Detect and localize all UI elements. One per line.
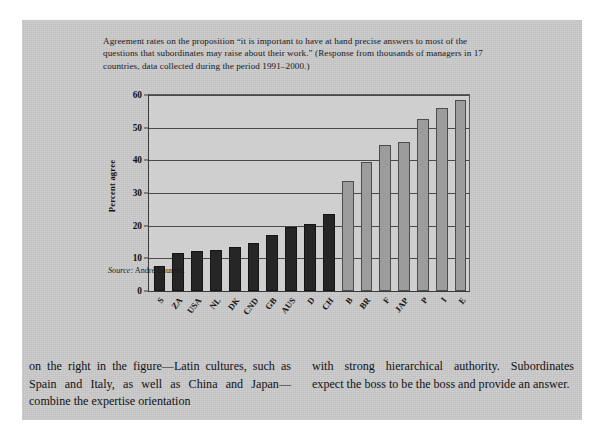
y-axis-label: Percent agree xyxy=(107,146,117,226)
x-axis-label-jap: JAP xyxy=(393,296,411,315)
body-column-right: with strong hierarchical authority. Subo… xyxy=(312,358,574,411)
bar-series xyxy=(149,95,469,291)
x-axis-label-gb: GB xyxy=(263,295,279,311)
bar-f xyxy=(379,145,391,291)
y-tick-label: 10 xyxy=(133,253,142,263)
body-text: on the right in the figure—Latin culture… xyxy=(29,358,574,411)
bar-chart: Percent agree 0102030405060 SZAUSANLDKCN… xyxy=(96,81,508,346)
bar-i xyxy=(436,108,448,291)
x-axis-label-dk: DK xyxy=(225,295,241,311)
x-axis-label-aus: AUS xyxy=(279,296,298,316)
y-tick-label: 60 xyxy=(133,90,142,100)
x-axis-label-d: D xyxy=(305,295,317,306)
x-axis-label-cnd: CND xyxy=(240,296,260,317)
x-axis-label-i: I xyxy=(439,295,449,304)
bar-br xyxy=(361,162,373,291)
bar-e xyxy=(455,100,467,291)
body-paragraph-left: on the right in the figure—Latin culture… xyxy=(29,358,291,411)
x-axis-label-za: ZA xyxy=(169,295,184,311)
body-paragraph-right: with strong hierarchical authority. Subo… xyxy=(312,358,574,393)
y-tick-label: 50 xyxy=(133,123,142,133)
body-column-left: on the right in the figure—Latin culture… xyxy=(29,358,291,411)
x-axis-label-nl: NL xyxy=(207,295,222,311)
bar-nl xyxy=(210,250,222,291)
bar-p xyxy=(417,119,429,291)
source-value: André Laurent. xyxy=(133,266,185,275)
bar-dk xyxy=(229,247,241,291)
bar-b xyxy=(342,181,354,291)
bar-usa xyxy=(191,251,203,291)
figure-container: Agreement rates on the proposition “it i… xyxy=(96,26,508,348)
x-axis-label-s: S xyxy=(155,295,166,305)
figure-caption: Agreement rates on the proposition “it i… xyxy=(103,35,501,72)
x-axis-label-e: E xyxy=(456,295,467,306)
bar-aus xyxy=(285,227,297,291)
y-tick-label: 40 xyxy=(133,155,142,165)
x-axis-label-f: F xyxy=(381,295,392,305)
x-axis-label-br: BR xyxy=(358,295,373,311)
bar-cnd xyxy=(248,243,260,291)
x-axis-label-usa: USA xyxy=(185,296,204,316)
plot-area: 0102030405060 SZAUSANLDKCNDGBAUSDCHBBRFJ… xyxy=(148,94,470,292)
scanned-page: Agreement rates on the proposition “it i… xyxy=(22,20,582,420)
y-tick-label: 30 xyxy=(133,188,142,198)
x-axis-label-b: B xyxy=(343,295,354,306)
y-tick-label: 20 xyxy=(133,221,142,231)
x-axis-label-p: P xyxy=(419,295,430,305)
source-label: Source: xyxy=(108,266,133,275)
bar-d xyxy=(304,224,316,291)
bar-ch xyxy=(323,214,335,291)
figure-source: Source: André Laurent. xyxy=(108,266,185,275)
y-tick-label: 0 xyxy=(137,286,142,296)
x-axis-label-ch: CH xyxy=(319,295,335,311)
bar-jap xyxy=(398,142,410,291)
bar-gb xyxy=(266,235,278,291)
